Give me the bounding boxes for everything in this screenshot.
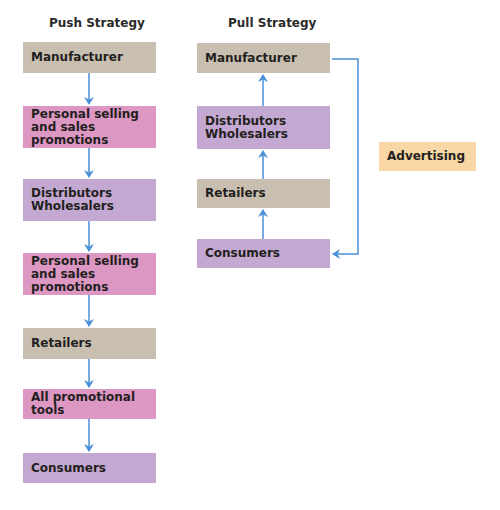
flow-arrows [0, 0, 500, 510]
arrow-connector-icon [332, 59, 358, 254]
